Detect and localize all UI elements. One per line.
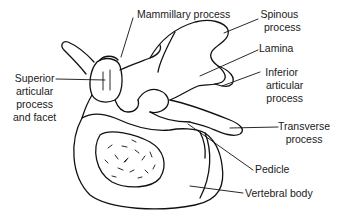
label-pedicle: Pedicle <box>255 163 289 176</box>
label-superior-articular-process: Superior articular process and facet <box>13 72 56 124</box>
label-line: process <box>278 133 330 146</box>
label-mammillary-process: Mammillary process <box>137 8 230 21</box>
endplate-outline <box>96 132 164 187</box>
label-line: Spinous <box>258 8 301 21</box>
label-line: process <box>260 92 303 105</box>
vertebral-body-outline <box>74 114 223 209</box>
label-inferior-articular-process: Inferior articular process <box>260 66 303 105</box>
label-line: articular <box>260 79 303 92</box>
vertebra-diagram: Mammillary process Spinous process Lamin… <box>0 0 344 218</box>
label-lamina: Lamina <box>259 42 293 55</box>
trabecular-bone-texture <box>105 140 155 178</box>
label-line: Inferior <box>260 66 303 79</box>
superior-articular-outline <box>90 59 122 103</box>
label-transverse-process: Transverse process <box>278 120 330 146</box>
label-line: process <box>13 98 56 111</box>
label-line: process <box>258 21 301 34</box>
label-line: and facet <box>13 111 56 124</box>
label-line: articular <box>13 85 56 98</box>
label-vertebral-body: Vertebral body <box>245 187 313 200</box>
label-line: Superior <box>13 72 56 85</box>
label-spinous-process: Spinous process <box>258 8 301 34</box>
label-line: Transverse <box>278 120 330 133</box>
transverse-process-outline <box>170 100 242 135</box>
